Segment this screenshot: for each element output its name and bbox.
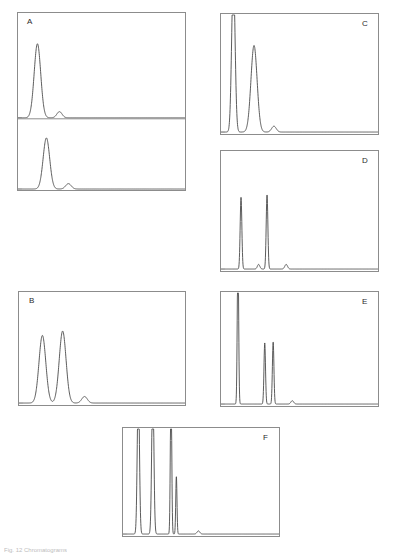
- panel-c-plot: [221, 14, 378, 134]
- figure-caption: Fig. 12 Chromatograms: [4, 547, 67, 553]
- panel-b-plot: [19, 292, 185, 405]
- panel-f: [122, 427, 280, 537]
- trace-f: [123, 429, 279, 534]
- panel-e-label: E: [362, 297, 368, 306]
- panel-d-label: D: [362, 156, 368, 165]
- panel-f-label: F: [263, 433, 268, 442]
- panel-e-plot: [221, 292, 378, 406]
- panel-d-plot: [221, 151, 378, 271]
- trace-a-lower: [18, 138, 185, 189]
- panel-a-lower-trace: [18, 138, 185, 189]
- panel-d: [220, 150, 379, 272]
- panel-e: [220, 291, 379, 407]
- trace-e: [221, 293, 378, 404]
- trace-a-upper: [18, 44, 185, 118]
- panel-a-upper-trace: [18, 44, 185, 118]
- trace-b: [19, 331, 185, 403]
- panel-c: [220, 13, 379, 135]
- panel-b-label: B: [29, 296, 35, 305]
- panel-a-plot: [18, 13, 185, 190]
- panel-c-label: C: [362, 19, 368, 28]
- panel-a-label: A: [27, 17, 33, 26]
- trace-d: [221, 195, 378, 269]
- panel-a: [17, 12, 186, 191]
- trace-c: [221, 15, 378, 132]
- panel-b: [18, 291, 186, 406]
- panel-f-plot: [123, 428, 279, 536]
